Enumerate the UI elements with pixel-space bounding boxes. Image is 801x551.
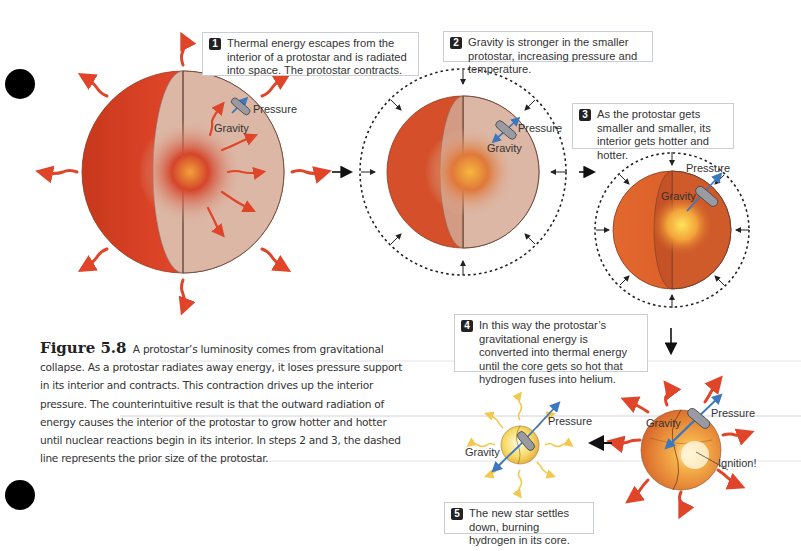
figure-caption-text: A protostar’s luminosity comes from grav… bbox=[40, 343, 402, 464]
protostar-stage-1 bbox=[41, 37, 326, 310]
gravity-label-3: Gravity bbox=[661, 190, 696, 202]
pressure-label-2: Pressure bbox=[518, 122, 562, 134]
step-1-callout: 1 Thermal energy escapes from the interi… bbox=[202, 32, 419, 76]
gravity-label-4: Gravity bbox=[646, 417, 681, 429]
step-3-number: 3 bbox=[579, 109, 591, 121]
figure-number: Figure 5.8 bbox=[40, 339, 127, 357]
ignition-label: Ignition! bbox=[718, 457, 757, 469]
step-2-number: 2 bbox=[450, 37, 462, 49]
gravity-label-5: Gravity bbox=[465, 446, 500, 458]
step-5-text: The new star settles down, burning hydro… bbox=[469, 507, 570, 546]
pressure-label-4: Pressure bbox=[711, 407, 755, 419]
gravity-label-1: Gravity bbox=[214, 122, 249, 134]
step-1-number: 1 bbox=[209, 38, 221, 50]
step-1-text: Thermal energy escapes from the interior… bbox=[227, 37, 407, 76]
step-5-callout: 5 The new star settles down, burning hyd… bbox=[444, 502, 594, 534]
step-4-text: In this way the protostar’s gravitationa… bbox=[479, 319, 627, 385]
protostar-stage-3 bbox=[595, 152, 749, 308]
protostar-stage-2 bbox=[360, 69, 566, 275]
step-2-callout: 2 Gravity is stronger in the smaller pro… bbox=[443, 31, 653, 62]
figure-caption: Figure 5.8 A protostar’s luminosity come… bbox=[40, 339, 408, 467]
pressure-label-5: Pressure bbox=[548, 415, 592, 427]
step-4-callout: 4 In this way the protostar’s gravitatio… bbox=[454, 314, 648, 372]
step-4-number: 4 bbox=[461, 320, 473, 332]
pressure-label-1: Pressure bbox=[253, 103, 297, 115]
protostar-stage-4-ignition bbox=[612, 380, 749, 514]
protostar-diagram bbox=[0, 0, 801, 551]
pressure-label-3: Pressure bbox=[686, 162, 730, 174]
step-5-number: 5 bbox=[451, 508, 463, 520]
step-3-callout: 3 As the protostar gets smaller and smal… bbox=[572, 103, 734, 149]
gravity-label-2: Gravity bbox=[487, 142, 522, 154]
